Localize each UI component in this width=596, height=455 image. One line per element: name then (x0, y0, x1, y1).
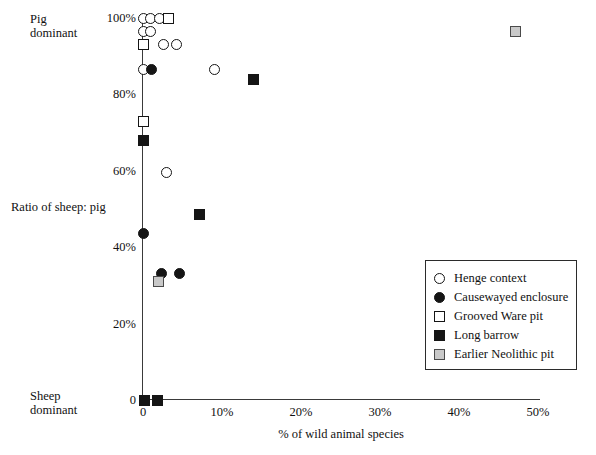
data-point-square-grey (510, 26, 521, 37)
chart-legend: Henge contextCausewayed enclosureGrooved… (425, 260, 577, 370)
sheep-dominant-note: Sheep dominant (30, 389, 77, 417)
data-point-circle-filled (146, 64, 157, 75)
legend-marker-square-filled-icon (434, 330, 445, 341)
legend-marker-square-open-icon (434, 311, 445, 322)
y-tick-label: 0 (130, 394, 136, 407)
legend-marker-circle-filled-icon (434, 292, 445, 303)
legend-item-label: Grooved Ware pit (454, 310, 543, 323)
data-point-square-filled (139, 395, 150, 406)
legend-item[interactable]: Henge context (434, 269, 527, 287)
legend-item-label: Causewayed enclosure (454, 291, 568, 304)
legend-item-label: Earlier Neolithic pit (454, 348, 554, 361)
y-tick-label: 20% (113, 318, 136, 331)
legend-marker-square-grey-icon (434, 349, 445, 360)
data-point-circle-open (158, 39, 169, 50)
x-tick-label: 20% (290, 406, 313, 419)
data-point-square-grey (153, 276, 164, 287)
pig-dominant-note: Pig dominant (30, 12, 77, 40)
data-point-square-filled (138, 135, 149, 146)
y-axis-tick-labels: 020%40%60%80%100% (78, 0, 136, 455)
data-point-square-open (138, 39, 149, 50)
x-tick-label: 40% (448, 406, 471, 419)
data-point-square-open (163, 13, 174, 24)
data-point-square-open (138, 116, 149, 127)
y-tick-label: 100% (107, 12, 136, 25)
data-point-circle-open (161, 167, 172, 178)
data-point-circle-open (145, 26, 156, 37)
legend-item[interactable]: Causewayed enclosure (434, 288, 568, 306)
x-tick-label: 30% (369, 406, 392, 419)
legend-item-label: Henge context (454, 272, 527, 285)
legend-item[interactable]: Earlier Neolithic pit (434, 345, 554, 363)
data-point-circle-filled (138, 228, 149, 239)
data-point-circle-filled (174, 268, 185, 279)
legend-item[interactable]: Long barrow (434, 326, 519, 344)
data-point-circle-open (209, 64, 220, 75)
x-axis-title: % of wild animal species (142, 428, 540, 441)
y-tick-label: 80% (113, 88, 136, 101)
scatter-chart-figure: Pig dominant Sheep dominant Ratio of she… (0, 0, 596, 455)
y-tick-label: 40% (113, 241, 136, 254)
legend-item[interactable]: Grooved Ware pit (434, 307, 543, 325)
y-tick-label: 60% (113, 165, 136, 178)
x-tick-label: 0 (140, 406, 146, 419)
legend-item-label: Long barrow (454, 329, 519, 342)
legend-marker-circle-open-icon (434, 273, 445, 284)
data-point-square-filled (152, 395, 163, 406)
data-point-square-filled (248, 74, 259, 85)
data-point-circle-open (171, 39, 182, 50)
x-tick-label: 10% (211, 406, 234, 419)
x-tick-label: 50% (527, 406, 550, 419)
data-point-square-filled (194, 209, 205, 220)
